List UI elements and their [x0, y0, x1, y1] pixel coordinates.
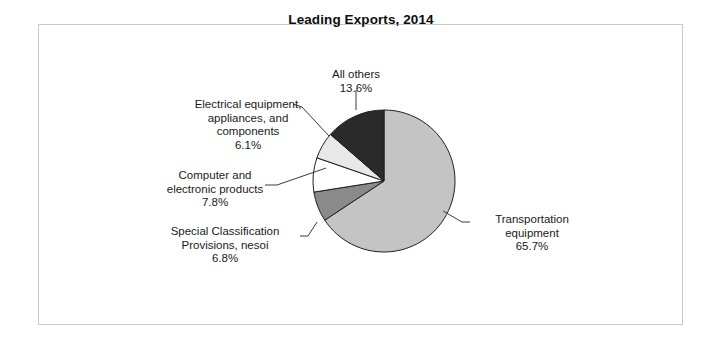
slice-label-all-others: All others 13.6% — [300, 68, 412, 95]
pie-chart — [0, 0, 722, 352]
slice-label-computer-electronic-products: Computer and electronic products 7.8% — [140, 169, 290, 210]
pie-slices — [313, 110, 455, 252]
slice-label-transportation-equipment: Transportation equipment 65.7% — [474, 213, 590, 254]
slice-label-special-classification-provisions: Special Classification Provisions, nesoi… — [146, 225, 304, 266]
slice-label-electrical-equipment: Electrical equipment, appliances, and co… — [178, 98, 318, 152]
